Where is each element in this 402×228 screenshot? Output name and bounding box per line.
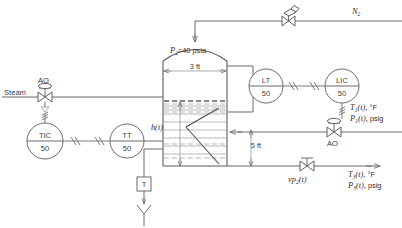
thermowell-label: T: [142, 180, 147, 189]
outlet-pressure-label: P3(t),psig: [347, 181, 381, 191]
height-label: 5 ft: [251, 141, 261, 150]
steam-valve-action-label: AO: [38, 76, 49, 85]
inlet-temperature-label: T1(t),°F: [350, 103, 377, 113]
inlet-pressure-label: P1(t),psig: [349, 114, 383, 124]
nitrogen-label: N2: [351, 7, 361, 17]
lic-tag-bottom: 50: [338, 89, 346, 98]
pid-diagram-canvas: N2 P2=40 psia 3 ft 5 ft h(t) Steam AO AO…: [0, 0, 402, 228]
feed-valve-action-label: AO: [327, 139, 338, 148]
steam-inlet-label: Steam: [4, 88, 26, 97]
level-label: h(t): [151, 123, 163, 132]
lt-tag-bottom: 50: [262, 89, 270, 98]
tt-tag-bottom: 50: [123, 144, 131, 153]
tic-tag-top: TIC: [39, 131, 52, 140]
tt-tag-top: TT: [122, 131, 132, 140]
diameter-label: 3 ft: [190, 62, 200, 71]
pid-text-layer: N2 P2=40 psia 3 ft 5 ft h(t) Steam AO AO…: [0, 0, 402, 228]
outlet-valve-signal-label: vp2(t): [288, 175, 307, 185]
lic-tag-top: LIC: [336, 76, 348, 85]
outlet-temperature-label: T3(t),°F: [348, 170, 375, 180]
tank-pressure-label: P2=40 psia: [169, 46, 207, 56]
tic-tag-bottom: 50: [41, 144, 49, 153]
lt-tag-top: LT: [262, 76, 271, 85]
